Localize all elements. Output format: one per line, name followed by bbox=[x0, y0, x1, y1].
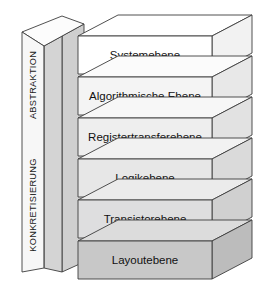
abstraction-axis-column: ABSTRAKTION KONKRETISIERUNG bbox=[22, 16, 84, 272]
layer-stack-diagram: ABSTRAKTION KONKRETISIERUNG Systemebene … bbox=[0, 0, 258, 294]
layer-label: Layoutebene bbox=[112, 254, 179, 266]
diagram-canvas: ABSTRAKTION KONKRETISIERUNG Systemebene … bbox=[0, 0, 258, 294]
axis-label-konkretisierung: KONKRETISIERUNG bbox=[28, 158, 38, 251]
layer-layoutebene[interactable]: Layoutebene bbox=[78, 220, 252, 279]
axis-label-abstraktion: ABSTRAKTION bbox=[28, 51, 38, 119]
axis-wedge-shade bbox=[44, 36, 62, 272]
